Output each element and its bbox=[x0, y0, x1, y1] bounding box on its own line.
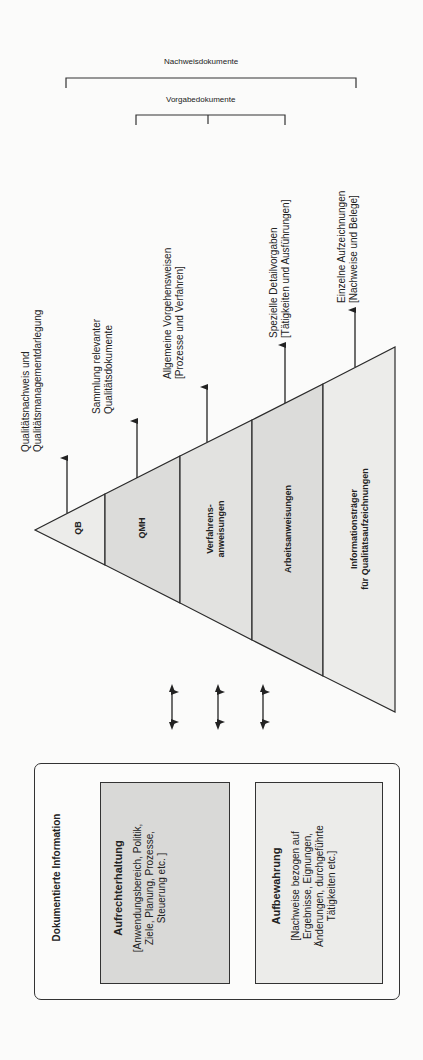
nachweisdokumente-label: Nachweisdokumente bbox=[164, 57, 238, 66]
nachweis-bracket bbox=[66, 78, 356, 88]
description-qb: Qualitätsnachweis und Qualitätsmanagemen… bbox=[20, 310, 44, 452]
double-arrows bbox=[172, 692, 263, 722]
vorgabedokumente-label: Vorgabedokumente bbox=[166, 95, 235, 104]
maintain-title: Aufrechterhaltung bbox=[112, 788, 124, 988]
retain-content: Aufbewahrung [Nachweise bezogen auf Erge… bbox=[270, 796, 338, 976]
description-verfahren: Allgemeine Vorgehensweisen [Prozesse und… bbox=[162, 248, 186, 379]
description-arbeit: Spezielle Detailvorgaben [Tätigkeiten un… bbox=[268, 200, 292, 338]
level-label-qb: QB bbox=[73, 508, 83, 548]
level-label-verfahren: Verfahrens- anweisungen bbox=[205, 489, 227, 569]
documented-information-title: Dokumentierte Information bbox=[51, 798, 62, 958]
level-label-info: Informationsträger für Qualitätsaufzeich… bbox=[349, 459, 371, 599]
description-info: Einzelne Aufzeichnungen [Nachweise und B… bbox=[336, 191, 360, 303]
vorgabe-bracket bbox=[136, 115, 285, 125]
level-label-arbeit: Arbeitsanweisungen bbox=[283, 469, 293, 589]
level-label-qmh: QMH bbox=[137, 508, 147, 548]
maintain-content: Aufrechterhaltung [Anwendungsbereich, Po… bbox=[112, 788, 168, 988]
pyramid-level-qb bbox=[35, 494, 105, 565]
retain-title: Aufbewahrung bbox=[270, 796, 282, 976]
description-qmh: Sammlung relevanter Qualitätsdokumente bbox=[91, 319, 115, 414]
